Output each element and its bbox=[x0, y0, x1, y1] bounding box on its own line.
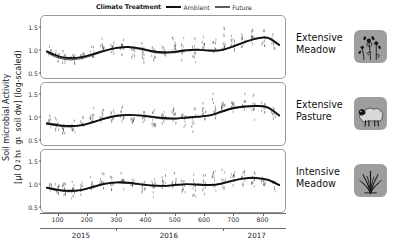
legend-line-future bbox=[215, 6, 230, 8]
panel-label-line2: Meadow bbox=[296, 178, 354, 190]
legend-label-future: Future bbox=[232, 4, 252, 11]
panel-label-extensive-meadow: Extensive Meadow bbox=[296, 32, 354, 55]
ylab-prefix: [µl O bbox=[13, 164, 23, 184]
y-tick-mark bbox=[39, 73, 41, 74]
x-tick-label: 700 bbox=[227, 216, 239, 223]
ylab-tail: soil dw] (log-scaled) bbox=[13, 50, 23, 134]
panel-extensive-pasture: 0.51.01.5 bbox=[40, 82, 286, 146]
grass-icon bbox=[354, 164, 387, 197]
legend-title: Climate Treatment bbox=[96, 3, 161, 11]
sheep-icon bbox=[354, 97, 387, 130]
y-tick-mark bbox=[39, 50, 41, 51]
legend-line-ambient bbox=[166, 6, 181, 8]
y-tick-mark bbox=[39, 140, 41, 141]
year-label: 2015 bbox=[72, 231, 90, 240]
y-tick-mark bbox=[39, 27, 41, 28]
x-tick-label: 100 bbox=[52, 216, 64, 223]
x-tick-label: 600 bbox=[198, 216, 210, 223]
year-boundary-tick bbox=[116, 228, 117, 231]
x-tick-label: 500 bbox=[169, 216, 181, 223]
panel-intensive-meadow: 0.51.01.5 bbox=[40, 149, 286, 213]
year-label: 2017 bbox=[248, 231, 266, 240]
y-axis-title-line2: [µl O2 h-1 g-1 soil dw] (log-scaled) bbox=[13, 22, 23, 212]
x-tick-label: 200 bbox=[81, 216, 93, 223]
panel-label-extensive-pasture: Extensive Pasture bbox=[296, 99, 354, 122]
panel-label-line1: Extensive bbox=[296, 99, 354, 111]
legend-entry-future: Future bbox=[215, 4, 252, 11]
plot-area-0 bbox=[41, 16, 285, 78]
panel-label-line2: Meadow bbox=[296, 44, 354, 56]
y-axis-title-line1: Soil microbial Activity bbox=[1, 22, 11, 212]
ylab-o2-sub: 2 bbox=[14, 159, 21, 163]
figure-root: Climate Treatment Ambient Future Soil mi… bbox=[0, 0, 395, 248]
ylab-g-sup: -1 bbox=[15, 136, 21, 142]
year-boundary-tick bbox=[223, 228, 224, 231]
y-tick-mark bbox=[39, 94, 41, 95]
year-axis-line bbox=[40, 228, 286, 229]
panel-label-line1: Extensive bbox=[296, 32, 354, 44]
legend-entry-ambient: Ambient bbox=[166, 4, 210, 11]
panel-label-line1: Intensive bbox=[296, 166, 354, 178]
y-tick-mark bbox=[39, 117, 41, 118]
panel-label-intensive-meadow: Intensive Meadow bbox=[296, 166, 354, 189]
y-tick-mark bbox=[39, 207, 41, 208]
panel-label-line2: Pasture bbox=[296, 111, 354, 123]
plot-area-2 bbox=[41, 150, 285, 212]
x-axis-line bbox=[40, 213, 286, 214]
plot-area-1 bbox=[41, 83, 285, 145]
y-tick-mark bbox=[39, 184, 41, 185]
x-tick-label: 800 bbox=[257, 216, 269, 223]
y-tick-mark bbox=[39, 161, 41, 162]
x-tick-label: 300 bbox=[110, 216, 122, 223]
x-tick-label: 400 bbox=[139, 216, 151, 223]
year-label: 2016 bbox=[160, 231, 178, 240]
legend-label-ambient: Ambient bbox=[184, 4, 210, 11]
x-axis-days: 100200300400500600700800 bbox=[40, 213, 286, 224]
legend: Climate Treatment Ambient Future bbox=[96, 1, 276, 13]
ylab-h-sup: -1 bbox=[15, 150, 21, 156]
panel-extensive-meadow: 0.51.01.5 bbox=[40, 15, 286, 79]
x-axis-years: 201520162017 bbox=[40, 228, 286, 240]
wildflower-icon bbox=[354, 30, 387, 63]
